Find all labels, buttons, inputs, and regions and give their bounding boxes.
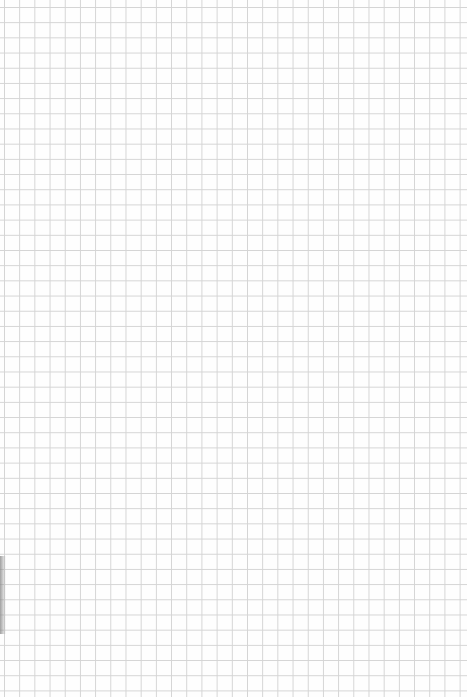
grid-paper-sheet (0, 0, 467, 697)
edge-shadow (0, 556, 6, 634)
